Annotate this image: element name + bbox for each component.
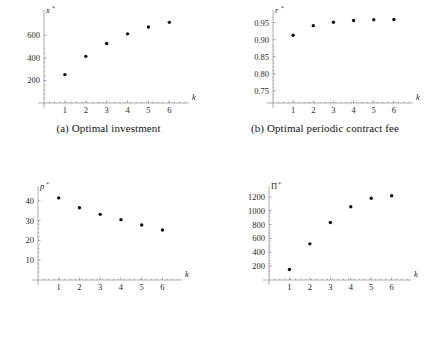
y-tick-label: 0.90 xyxy=(254,35,269,45)
x-tick-label: 3 xyxy=(105,105,109,115)
svg-text:r: r xyxy=(275,5,279,15)
y-tick-label: 0.85 xyxy=(254,52,269,62)
x-axis-label: k xyxy=(414,269,418,279)
data-point xyxy=(332,21,335,24)
y-tick-label: 800 xyxy=(252,220,265,230)
x-tick-label: 1 xyxy=(57,282,61,292)
y-tick-label: 10 xyxy=(26,255,35,265)
y-tick-label: 1200 xyxy=(248,192,265,202)
data-point xyxy=(291,34,294,37)
x-tick-label: 2 xyxy=(311,105,315,115)
data-point xyxy=(329,221,332,224)
data-point xyxy=(119,218,122,221)
data-point xyxy=(161,228,164,231)
scatter-plot-b: 1234560.750.800.850.900.95kr* xyxy=(217,0,433,120)
y-tick-label: 30 xyxy=(26,216,35,226)
y-tick-label: 200 xyxy=(27,75,40,85)
x-tick-label: 4 xyxy=(125,105,130,115)
y-axis-label: r* xyxy=(275,5,284,16)
data-point xyxy=(147,25,150,28)
x-tick-label: 5 xyxy=(146,105,150,115)
data-point xyxy=(308,242,311,245)
x-tick-label: 6 xyxy=(167,105,171,115)
y-tick-label: 20 xyxy=(26,235,35,245)
x-tick-label: 2 xyxy=(77,282,81,292)
data-point xyxy=(57,196,60,199)
svg-text:Π: Π xyxy=(271,181,277,191)
data-point xyxy=(288,268,291,271)
panel-profit: 12345610203040kp* (c) Profit xyxy=(0,148,217,338)
data-point xyxy=(168,21,171,24)
y-tick-label: 600 xyxy=(252,233,265,243)
panel-reliability: 12345620040060080010001200kΠ* (d) Reliab… xyxy=(217,148,433,338)
plot-d: 12345620040060080010001200kΠ* xyxy=(217,148,433,338)
y-tick-label: 200 xyxy=(252,261,265,271)
scatter-plot-c: 12345610203040kp* xyxy=(0,162,217,307)
panel-optimal-periodic-contract-fee: 1234560.750.800.850.900.95kr* (b) Optima… xyxy=(217,0,433,148)
x-tick-label: 5 xyxy=(369,282,373,292)
scatter-plot-a: 123456200400600kx* xyxy=(0,0,217,120)
x-tick-label: 6 xyxy=(390,282,394,292)
y-axis-label: p* xyxy=(39,181,49,192)
x-tick-label: 6 xyxy=(160,282,164,292)
data-point xyxy=(370,197,373,200)
x-axis-label: k xyxy=(185,269,189,279)
caption-a: (a) Optimal investment xyxy=(0,122,217,134)
scatter-plot-d: 12345620040060080010001200kΠ* xyxy=(217,162,433,307)
svg-text:*: * xyxy=(278,181,281,187)
y-tick-label: 400 xyxy=(252,247,265,257)
x-tick-label: 5 xyxy=(372,105,376,115)
y-axis-label: Π* xyxy=(271,181,281,192)
data-point xyxy=(312,24,315,27)
x-tick-label: 4 xyxy=(351,105,356,115)
svg-text:p: p xyxy=(39,181,44,191)
y-tick-label: 0.80 xyxy=(254,69,269,79)
x-tick-label: 1 xyxy=(63,105,67,115)
x-tick-label: 4 xyxy=(349,282,354,292)
x-tick-label: 5 xyxy=(140,282,144,292)
plot-c: 12345610203040kp* xyxy=(0,148,217,338)
x-tick-label: 2 xyxy=(84,105,88,115)
figure-grid: 123456200400600kx* (a) Optimal investmen… xyxy=(0,0,433,338)
y-tick-label: 400 xyxy=(27,53,40,63)
data-point xyxy=(105,42,108,45)
data-point xyxy=(372,18,375,21)
y-tick-label: 0.75 xyxy=(254,86,269,96)
data-point xyxy=(392,18,395,21)
x-tick-label: 1 xyxy=(291,105,295,115)
svg-text:*: * xyxy=(52,5,55,11)
data-point xyxy=(352,19,355,22)
x-tick-label: 4 xyxy=(119,282,124,292)
svg-text:x: x xyxy=(45,5,50,15)
x-tick-label: 1 xyxy=(287,282,291,292)
data-point xyxy=(349,205,352,208)
panel-optimal-investment: 123456200400600kx* (a) Optimal investmen… xyxy=(0,0,217,148)
data-point xyxy=(84,55,87,58)
x-axis-label: k xyxy=(416,92,420,102)
x-tick-label: 3 xyxy=(328,282,332,292)
y-tick-label: 40 xyxy=(26,196,35,206)
data-point xyxy=(78,206,81,209)
x-tick-label: 2 xyxy=(308,282,312,292)
data-point xyxy=(126,32,129,35)
y-tick-label: 0.95 xyxy=(254,18,269,28)
svg-text:*: * xyxy=(46,181,49,187)
svg-text:*: * xyxy=(281,5,284,11)
data-point xyxy=(99,213,102,216)
x-axis-label: k xyxy=(192,92,196,102)
y-tick-label: 1000 xyxy=(248,206,265,216)
y-tick-label: 600 xyxy=(27,30,40,40)
x-tick-label: 3 xyxy=(331,105,335,115)
data-point xyxy=(390,194,393,197)
data-point xyxy=(140,223,143,226)
caption-b: (b) Optimal periodic contract fee xyxy=(217,122,433,134)
y-axis-label: x* xyxy=(45,5,55,16)
x-tick-label: 6 xyxy=(392,105,396,115)
data-point xyxy=(63,73,66,76)
x-tick-label: 3 xyxy=(98,282,102,292)
